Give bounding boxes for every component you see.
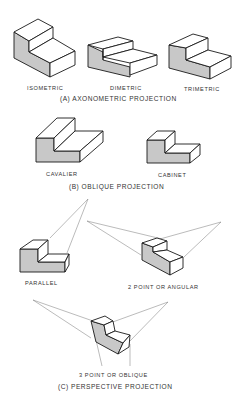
two-point-label: 2 POINT OR ANGULAR — [128, 284, 199, 290]
cavalier-stepped-block — [36, 118, 103, 162]
three-point-label: 3 POINT OR OBLIQUE — [79, 372, 148, 378]
diagram-svg: ISOMETRIC DIMETRIC TRIMETRIC (A) AXONOME… — [0, 0, 242, 398]
axonometric-title: (A) AXONOMETRIC PROJECTION — [60, 95, 177, 103]
projection-types-diagram: ISOMETRIC DIMETRIC TRIMETRIC (A) AXONOME… — [0, 0, 242, 398]
parallel-label: PARALLEL — [25, 280, 58, 286]
cabinet-stepped-block — [147, 131, 200, 163]
perspective-title: (C) PERSPECTIVE PROJECTION — [58, 383, 172, 391]
dimetric-stepped-block — [88, 37, 157, 77]
cavalier-label: CAVALIER — [46, 171, 78, 177]
isometric-label: ISOMETRIC — [27, 85, 63, 91]
two-point-perspective — [87, 221, 221, 275]
trimetric-label: TRIMETRIC — [184, 86, 220, 92]
parallel-perspective — [20, 199, 88, 272]
isometric-stepped-block — [14, 19, 75, 77]
cabinet-label: CABINET — [158, 172, 186, 178]
three-point-perspective — [33, 300, 168, 366]
trimetric-stepped-block — [169, 34, 231, 79]
dimetric-label: DIMETRIC — [110, 85, 142, 91]
oblique-title: (B) OBLIQUE PROJECTION — [69, 183, 164, 191]
